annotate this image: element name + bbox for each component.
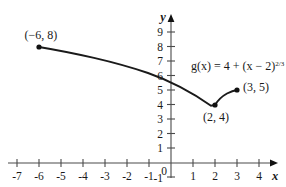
y-tick-label-3: 3 (157, 113, 163, 125)
x-tick-label--5: -5 (56, 170, 66, 182)
x-tick-label--3: -3 (100, 170, 110, 182)
function-equation-label: g(x) = 4 + (x − 2)2/3 (191, 59, 285, 73)
y-tick-label-7: 7 (157, 55, 163, 67)
y-tick-label-6: 6 (157, 70, 163, 82)
point-marker-right-endpoint (234, 87, 239, 92)
y-tick-label-4: 4 (157, 99, 163, 111)
function-equation-exponent: 2/3 (275, 60, 284, 68)
x-tick-label--2: -2 (122, 170, 132, 182)
point-marker-left-endpoint (36, 44, 41, 49)
y-tick-label-9: 9 (157, 26, 163, 38)
y-tick-label-2: 2 (157, 128, 163, 140)
y-tick-label-8: 8 (157, 41, 163, 53)
y-axis-arrowhead (168, 14, 175, 22)
point-label-right-endpoint: (3, 5) (243, 80, 269, 94)
function-equation-body: g(x) = 4 + (x − 2) (191, 59, 275, 73)
x-axis-label: x (271, 169, 278, 183)
point-label-cusp: (2, 4) (203, 110, 229, 124)
x-tick-label--4: -4 (78, 170, 88, 182)
y-tick-label-5: 5 (157, 84, 163, 96)
x-tick-label-1: 1 (190, 170, 196, 182)
x-axis-arrowhead (270, 160, 278, 167)
function-curve (39, 47, 237, 106)
x-tick-label-3: 3 (234, 170, 240, 182)
x-tick-label-4: 4 (256, 170, 262, 182)
x-tick-label--6: -6 (34, 170, 44, 182)
point-label-left-endpoint: (−6, 8) (25, 28, 58, 42)
y-axis-label: y (158, 10, 166, 24)
coordinate-plane: -7 -6 -5 -4 -3 -2 -1 1 2 3 4 -1 1 2 3 4 … (0, 0, 286, 187)
y-tick-label-1: 1 (157, 142, 163, 154)
origin-label: 0 (161, 165, 167, 177)
x-tick-label-2: 2 (212, 170, 218, 182)
x-tick-label--7: -7 (12, 170, 22, 182)
graph-figure: -7 -6 -5 -4 -3 -2 -1 1 2 3 4 -1 1 2 3 4 … (0, 0, 286, 187)
point-marker-cusp (212, 102, 217, 107)
